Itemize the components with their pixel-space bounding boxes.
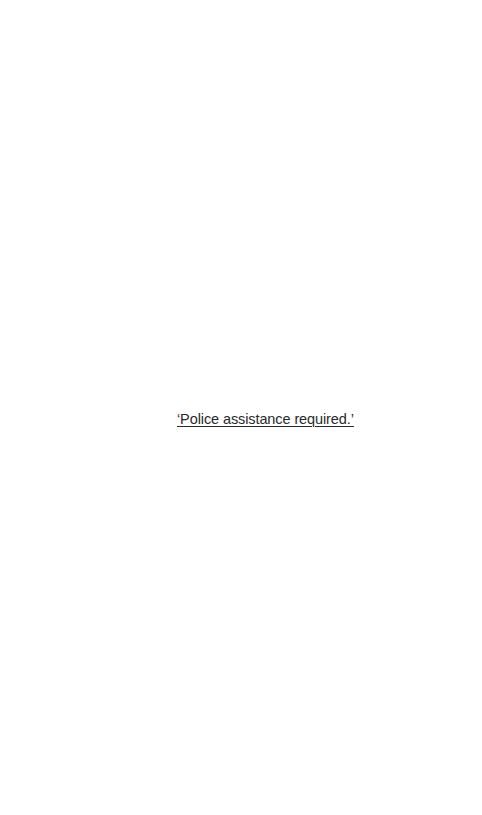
document-text: ‘Police assistance required.’ xyxy=(177,410,355,428)
document-page: ‘Police assistance required.’ xyxy=(0,0,482,815)
